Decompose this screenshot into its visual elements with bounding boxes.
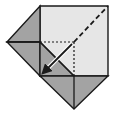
origami-diagram xyxy=(0,0,114,114)
diagram-svg xyxy=(0,0,114,114)
left-lower-flap xyxy=(7,42,40,76)
left-upper-flap xyxy=(7,6,40,42)
